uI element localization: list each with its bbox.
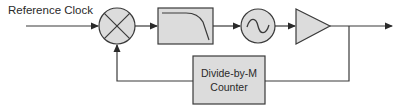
reference-clock-label: Reference Clock — [8, 4, 93, 16]
divider-label-line2: Counter — [210, 80, 247, 94]
amplifier-icon — [296, 9, 330, 44]
divide-by-m-counter-label: Divide-by-M Counter — [193, 56, 265, 104]
lowpass-filter-icon — [158, 8, 213, 44]
feedback-to-mixer-line — [117, 45, 193, 81]
divider-label-line1: Divide-by-M — [201, 66, 257, 80]
mixer-icon — [99, 8, 135, 44]
oscillator-icon — [241, 9, 275, 43]
